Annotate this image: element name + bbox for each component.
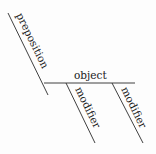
sentence-diagram: preposition object modifier modifier (0, 0, 156, 154)
preposition-label: preposition (14, 11, 51, 71)
object-label: object (74, 69, 107, 81)
diagram-svg: preposition object modifier modifier (0, 0, 156, 154)
modifier-label-2: modifier (119, 85, 150, 131)
